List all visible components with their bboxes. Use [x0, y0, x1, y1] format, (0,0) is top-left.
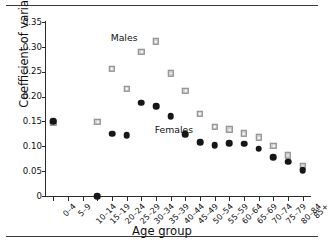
y-tick	[42, 196, 47, 197]
x-tick	[259, 196, 260, 201]
y-tick-label: 0	[2, 192, 42, 201]
y-tick-label: 0.15	[2, 117, 42, 126]
data-point-female	[153, 103, 160, 110]
x-tick	[171, 196, 172, 201]
x-tick	[83, 196, 84, 201]
data-point-female	[226, 140, 233, 147]
plot-area: MalesFemales	[46, 22, 310, 196]
y-tick	[42, 97, 47, 98]
data-point-male	[94, 119, 100, 125]
y-tick-label: 0.30	[2, 43, 42, 52]
y-tick-label: 0.20	[2, 92, 42, 101]
data-point-male	[153, 38, 159, 44]
y-tick-label: 0.35	[2, 18, 42, 27]
x-tick	[200, 196, 201, 201]
data-point-female	[285, 158, 292, 165]
data-point-female	[197, 139, 204, 146]
x-axis-title: Age group	[0, 224, 324, 238]
x-tick	[141, 196, 142, 201]
y-tick	[42, 72, 47, 73]
y-tick	[42, 171, 47, 172]
x-tick	[288, 196, 289, 201]
data-point-male	[211, 124, 217, 130]
x-axis-line	[45, 196, 311, 197]
y-tick	[42, 22, 47, 23]
data-point-male	[255, 134, 261, 140]
data-point-male	[167, 70, 173, 76]
y-tick	[42, 121, 47, 122]
data-point-female	[123, 132, 130, 139]
series-label-males: Males	[111, 33, 138, 42]
series-label-females: Females	[155, 125, 193, 134]
y-tick-label: 0.05	[2, 167, 42, 176]
data-point-male	[123, 85, 129, 91]
x-tick	[127, 196, 128, 201]
data-point-female	[299, 167, 306, 174]
x-tick-label: 5–9	[76, 202, 92, 218]
data-point-female	[50, 118, 57, 125]
data-point-female	[255, 145, 262, 152]
x-tick	[244, 196, 245, 201]
data-point-female	[109, 131, 116, 138]
x-tick	[185, 196, 186, 201]
data-point-male	[109, 66, 115, 72]
data-point-male	[197, 111, 203, 117]
x-tick	[273, 196, 274, 201]
x-tick	[68, 196, 69, 201]
x-tick	[156, 196, 157, 201]
data-point-female	[94, 193, 101, 200]
y-tick	[42, 47, 47, 48]
y-tick	[42, 146, 47, 147]
data-point-male	[270, 143, 276, 149]
data-point-female	[138, 99, 145, 106]
x-tick	[112, 196, 113, 201]
x-tick	[215, 196, 216, 201]
data-point-female	[167, 113, 174, 120]
y-tick-label: 0.25	[2, 67, 42, 76]
data-point-female	[270, 154, 277, 161]
x-tick	[229, 196, 230, 201]
y-tick-label: 0.10	[2, 142, 42, 151]
data-point-female	[241, 141, 248, 148]
data-point-male	[182, 87, 188, 93]
data-point-male	[241, 130, 247, 136]
data-point-male	[226, 126, 232, 132]
x-tick	[303, 196, 304, 201]
x-tick	[53, 196, 54, 201]
data-point-female	[211, 142, 218, 149]
data-point-male	[138, 49, 144, 55]
